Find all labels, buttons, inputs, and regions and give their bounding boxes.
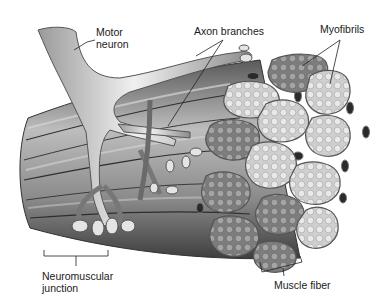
- fiber-light: [246, 142, 297, 188]
- label-myofibrils: Myofibrils: [320, 23, 364, 35]
- label-muscle-fiber: Muscle fiber: [274, 279, 331, 291]
- label-axon-branches: Axon branches: [194, 25, 264, 37]
- fiber-light: [290, 162, 341, 204]
- label-neuromuscular-line2: junction: [42, 282, 113, 294]
- fiber-light: [297, 207, 338, 248]
- label-motor-neuron-line2: neuron: [96, 38, 129, 50]
- fiber-dark: [254, 241, 297, 272]
- diagram-canvas: Motor neuron Axon branches Myofibrils Ne…: [0, 0, 385, 308]
- fiber-light: [306, 70, 350, 114]
- fiber-dark: [202, 172, 251, 212]
- label-neuromuscular-junction: Neuromuscular junction: [42, 270, 113, 294]
- label-neuromuscular-line1: Neuromuscular: [42, 270, 113, 282]
- fiber-light: [258, 100, 309, 142]
- label-motor-neuron-line1: Motor: [96, 26, 129, 38]
- fiber-dark: [210, 216, 259, 256]
- label-motor-neuron: Motor neuron: [96, 26, 129, 50]
- muscle-illustration: [0, 0, 385, 308]
- fiber-light: [306, 115, 351, 156]
